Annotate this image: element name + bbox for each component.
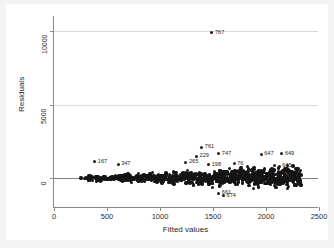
data-point [271,180,274,183]
data-point-label: 761 [205,144,214,150]
data-point [132,177,135,180]
data-point [207,175,210,178]
data-point [257,185,260,188]
x-tick-label: 500 [101,213,114,221]
x-tick [160,207,161,211]
data-point-labeled [184,161,187,164]
data-point [199,178,202,181]
data-point-label: 198 [212,162,221,168]
data-point [221,170,224,173]
data-point-labeled [260,153,263,156]
data-point [188,177,191,180]
data-point-labeled [195,155,198,158]
data-point [162,176,165,179]
data-point-label: 167 [98,159,107,165]
data-point-label: 747 [222,151,231,157]
data-point [286,169,289,172]
x-tick-label: 1500 [205,213,222,221]
data-point-label: 647 [264,151,273,157]
data-point [87,178,90,181]
data-point-labeled [207,163,210,166]
data-point [214,176,217,179]
data-point [180,179,183,182]
data-point [201,173,204,176]
x-axis-title: Fitted values [53,226,318,234]
data-point-labeled [117,163,120,166]
x-tick [107,207,108,211]
data-point [218,184,221,187]
data-point [192,183,195,186]
data-point [276,172,279,175]
x-tick-label: 1000 [152,213,169,221]
y-axis-title: Residuals [18,77,26,112]
data-point [291,164,294,167]
data-point-labeled [217,192,220,195]
data-point-labeled [210,31,213,34]
data-point-labeled [200,146,203,149]
data-point-labeled [280,152,283,155]
x-tick [319,207,320,211]
data-point-label: 674 [227,193,236,199]
data-point-label: 767 [215,30,224,36]
x-tick [54,207,55,211]
y-tick: 10000 [50,31,54,32]
plot-area: 0500010000 05001000150020002500 76776174… [53,16,318,208]
data-point [157,173,160,176]
y-tick-label: 10000 [41,34,48,53]
plot-card: Residuals Fitted values 0500010000 05001… [6,4,328,240]
data-point [237,175,240,178]
gridline [54,31,318,32]
data-point [94,175,97,178]
data-point [263,182,266,185]
data-point-label: 229 [200,154,209,160]
data-point [124,176,127,179]
data-point [193,175,196,178]
data-point [237,181,240,184]
data-point-labeled [93,160,96,163]
data-point-label: 645 [282,164,291,170]
data-point [264,175,267,178]
data-point-labeled [222,194,225,197]
data-point [211,186,214,189]
data-point [182,176,185,179]
data-point [252,187,255,190]
data-point-label: 649 [285,151,294,157]
data-point [266,181,269,184]
y-tick: 5000 [50,105,54,106]
data-point [228,180,231,183]
data-point [207,183,210,186]
data-point [286,187,289,190]
gridline [54,105,318,106]
data-point [259,171,262,174]
data-point [216,179,219,182]
x-tick [213,207,214,211]
data-point [140,178,143,181]
data-point-labeled [233,162,236,165]
data-point-label: 76 [237,161,243,167]
x-tick [266,207,267,211]
data-point [205,180,208,183]
y-tick-label: 0 [41,182,48,186]
data-point-labeled [217,152,220,155]
chart-screenshot: Residuals Fitted values 0500010000 05001… [0,0,334,248]
data-point [79,176,82,179]
x-tick-label: 2000 [258,213,275,221]
data-point-labeled [278,165,281,168]
y-tick: 0 [50,178,54,179]
data-point [87,175,90,178]
data-point [296,180,299,183]
data-point [274,186,277,189]
data-point-label: 265 [189,160,198,166]
data-point [99,180,102,183]
data-point [241,181,244,184]
data-point-label: 347 [121,162,130,168]
x-tick-label: 0 [52,213,56,221]
y-tick-label: 5000 [41,108,48,124]
data-point [243,176,246,179]
data-point [171,182,174,185]
x-tick-label: 2500 [311,213,328,221]
